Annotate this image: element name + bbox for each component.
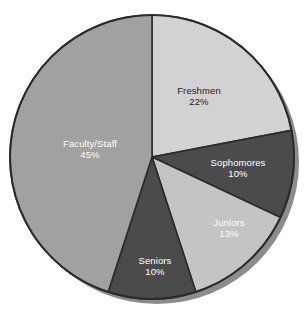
pie-slices-group — [10, 15, 294, 299]
pie-chart: Freshmen 22% Sophomores 10% Juniors 13% … — [0, 0, 304, 312]
pie-chart-canvas — [0, 0, 304, 312]
